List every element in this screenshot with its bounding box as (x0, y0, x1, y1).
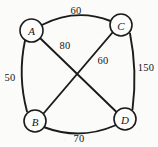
edge-b-d-weight: 70 (74, 133, 85, 144)
edge-a-d-line (41, 39, 117, 112)
edge-a-c-line (42, 15, 111, 25)
edge-c-b-weight: 60 (98, 55, 109, 66)
edge-a-b-line (22, 41, 27, 112)
node-a-label: A (27, 25, 35, 37)
graph-canvas: A C B D 60 50 150 70 80 60 (0, 0, 158, 147)
edge-c-d-weight: 150 (138, 62, 154, 73)
node-c-label: C (117, 20, 125, 32)
edge-a-b-weight: 50 (5, 72, 16, 83)
node-b-label: B (32, 116, 39, 128)
edge-c-b-line (44, 33, 113, 114)
graph-diagram: A C B D 60 50 150 70 80 60 (0, 0, 158, 147)
node-d-label: D (120, 114, 129, 126)
edge-a-c-weight: 60 (71, 5, 82, 16)
edge-a-d-weight: 80 (60, 40, 71, 51)
edge-c-d-line (130, 34, 135, 110)
